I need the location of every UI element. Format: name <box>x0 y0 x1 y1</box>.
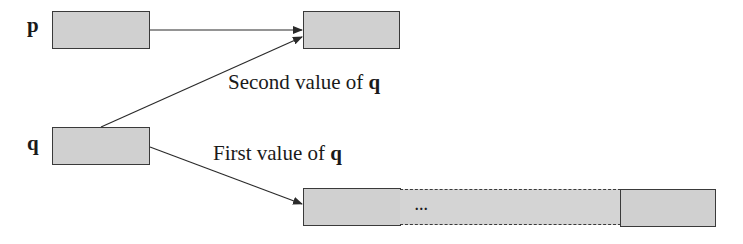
caption-second-value: Second value of q <box>228 72 380 93</box>
single-target-box <box>303 11 400 49</box>
variable-label-q: q <box>27 133 39 154</box>
array-middle-cells <box>400 189 621 225</box>
caption-first-text: First value of <box>213 141 330 165</box>
caption-second-var: q <box>369 70 381 94</box>
array-ellipsis: ... <box>415 198 429 214</box>
variable-label-p: p <box>27 15 39 36</box>
pointer-box-q <box>52 127 150 165</box>
pointer-box-p <box>52 11 150 49</box>
array-first-cell <box>303 188 401 226</box>
array-last-cell <box>620 189 716 227</box>
caption-first-value: First value of q <box>213 143 342 164</box>
caption-second-text: Second value of <box>228 70 369 94</box>
pointer-diagram: p Second value of q q First value of q .… <box>0 0 743 244</box>
caption-first-var: q <box>330 141 342 165</box>
